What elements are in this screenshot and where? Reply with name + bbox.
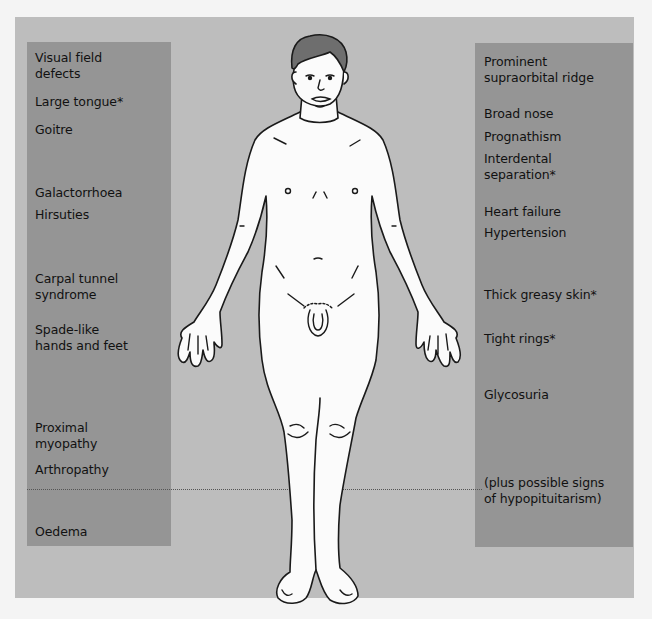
human-figure-illustration — [0, 0, 652, 619]
body-outline — [178, 112, 460, 603]
